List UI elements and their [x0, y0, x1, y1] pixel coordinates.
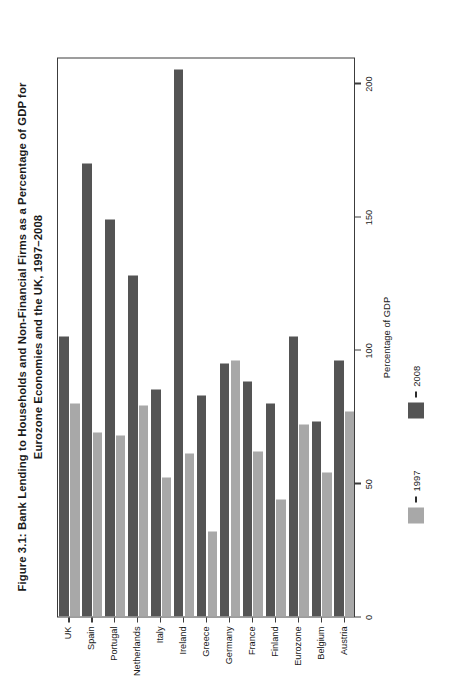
bar-2008-ireland — [174, 69, 184, 616]
title-line-1: Figure 3.1: Bank Lending to Households a… — [14, 30, 30, 643]
bar-group — [264, 58, 287, 616]
category-label-finland: Finland — [270, 626, 280, 656]
category-tick — [114, 617, 115, 622]
value-tick — [355, 616, 361, 617]
bar-group — [333, 58, 354, 616]
bar-1997-germany — [231, 360, 241, 616]
category-tick — [160, 617, 161, 622]
bar-1997-austria — [345, 411, 354, 616]
bar-group — [218, 58, 241, 616]
bar-group — [287, 58, 310, 616]
bar-1997-portugal — [116, 435, 126, 616]
page-title: Figure 3.1: Bank Lending to Households a… — [14, 0, 46, 673]
value-tick-label: 100 — [364, 343, 374, 358]
bar-1997-finland — [276, 499, 286, 616]
category-tick — [252, 617, 253, 622]
bar-group — [58, 58, 81, 616]
bar-group — [150, 58, 173, 616]
legend-label: 1997 — [411, 470, 422, 491]
value-tick — [355, 349, 361, 350]
bar-2008-finland — [266, 403, 276, 616]
category-label-portugal: Portugal — [109, 626, 119, 660]
value-tick — [355, 82, 361, 83]
value-tick — [355, 216, 361, 217]
category-tick — [344, 617, 345, 622]
value-tick-label: 0 — [364, 614, 374, 619]
bar-2008-portugal — [105, 219, 115, 616]
legend-label: 2008 — [411, 365, 422, 386]
legend-item-2008: 2008 — [408, 365, 424, 418]
category-tick — [137, 617, 138, 622]
bar-group — [310, 58, 333, 616]
legend-swatch-icon — [408, 402, 424, 418]
category-label-eurozone: Eurozone — [293, 626, 303, 665]
bar-2008-greece — [197, 395, 207, 616]
category-label-greece: Greece — [201, 626, 211, 656]
category-label-ireland: Ireland — [178, 626, 188, 654]
bar-1997-netherlands — [139, 405, 149, 616]
legend-swatch-icon — [408, 507, 424, 523]
bar-2008-netherlands — [128, 275, 138, 616]
category-tick — [321, 617, 322, 622]
legend-dash-icon — [415, 391, 416, 397]
category-axis: AustriaBelgiumEurozoneFinlandFranceGerma… — [57, 617, 355, 673]
legend-item-1997: 1997 — [408, 470, 424, 523]
value-tick-label: 150 — [364, 209, 374, 224]
bar-1997-ireland — [185, 453, 195, 616]
bar-2008-italy — [151, 389, 161, 616]
bar-group — [104, 58, 127, 616]
category-label-germany: Germany — [224, 626, 234, 664]
category-tick — [91, 617, 92, 622]
bar-group — [196, 58, 219, 616]
category-tick — [183, 617, 184, 622]
bar-group — [81, 58, 104, 616]
category-label-italy: Italy — [155, 626, 165, 643]
value-tick-label: 200 — [364, 76, 374, 91]
value-axis-title: Percentage of GDP — [381, 57, 392, 617]
bar-1997-uk — [70, 403, 80, 616]
category-tick — [275, 617, 276, 622]
category-label-uk: UK — [63, 626, 73, 639]
category-tick — [68, 617, 69, 622]
bar-group — [241, 58, 264, 616]
bar-2008-uk — [59, 336, 69, 616]
category-tick — [298, 617, 299, 622]
bar-2008-eurozone — [289, 336, 299, 616]
bar-1997-spain — [93, 432, 103, 616]
category-tick — [206, 617, 207, 622]
bar-1997-eurozone — [299, 424, 309, 616]
bar-1997-belgium — [322, 472, 332, 616]
bar-group — [173, 58, 196, 616]
chart-legend: 19972008 — [408, 365, 424, 523]
category-label-austria: Austria — [339, 626, 349, 655]
bar-2008-belgium — [312, 421, 322, 616]
bar-1997-italy — [162, 477, 172, 616]
value-tick — [355, 482, 361, 483]
bar-group — [127, 58, 150, 616]
bars-layer — [58, 58, 354, 616]
legend-dash-icon — [415, 496, 416, 502]
bar-2008-austria — [334, 360, 344, 616]
category-label-netherlands: Netherlands — [132, 626, 142, 676]
category-label-belgium: Belgium — [316, 626, 326, 659]
category-label-spain: Spain — [86, 626, 96, 650]
bar-2008-spain — [82, 163, 92, 616]
category-label-france: France — [247, 626, 257, 655]
value-tick-label: 50 — [364, 479, 374, 489]
plot-area — [57, 57, 355, 617]
bar-2008-germany — [220, 363, 230, 616]
bar-1997-greece — [208, 531, 218, 616]
title-line-2: Eurozone Economies and the UK, 1997–2008 — [30, 30, 46, 643]
bar-1997-france — [253, 451, 263, 616]
bar-2008-france — [243, 381, 253, 616]
category-tick — [229, 617, 230, 622]
